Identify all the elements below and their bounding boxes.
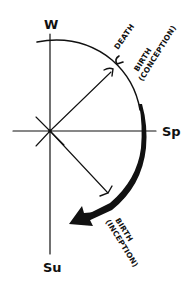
death-label: DEATH — [112, 22, 136, 51]
life-arc-thin — [37, 40, 140, 110]
birth-conception-label: BIRTH (CONCEPTION) — [129, 19, 178, 83]
upper-radial-line — [50, 72, 111, 131]
birth-inception-label: BIRTH (INCEPTION) — [104, 213, 148, 269]
lower-radial-line — [50, 131, 108, 193]
radial-lines — [50, 72, 111, 193]
upper-brackets — [104, 56, 123, 76]
life-cycle-diagram: W Sp Su DEATH BIRTH (CONCEPTION) BIRTH (… — [0, 0, 196, 287]
death-bracket — [116, 56, 123, 64]
arrowhead-icon — [69, 206, 96, 226]
axis-label-w: W — [44, 17, 58, 32]
axis-label-sp: Sp — [162, 124, 181, 139]
diagonal-line-b — [36, 131, 50, 146]
axis-label-su: Su — [43, 260, 62, 275]
lower-brackets — [100, 186, 123, 207]
life-arc-thick — [84, 104, 147, 222]
